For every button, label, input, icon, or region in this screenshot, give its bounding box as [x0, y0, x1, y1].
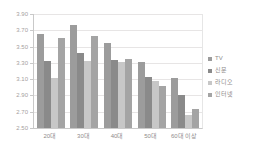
- x-axis-label: 20대: [33, 131, 67, 140]
- legend: TV신문라디오인터넷: [208, 55, 233, 98]
- bar-tv: [37, 34, 44, 128]
- legend-label: 신문: [215, 67, 227, 74]
- x-axis-label: 60대 이상: [167, 131, 201, 140]
- bar-group-2: [68, 14, 102, 128]
- bar-tv: [138, 62, 145, 128]
- bar-group-3: [101, 14, 135, 128]
- bar-인터넷: [192, 109, 199, 128]
- bar-tv: [104, 43, 111, 129]
- bar-라디오: [51, 78, 58, 128]
- legend-label: TV: [215, 55, 223, 62]
- bar-인터넷: [91, 36, 98, 128]
- y-axis-label: 3.30: [6, 60, 28, 66]
- bar-신문: [44, 61, 51, 128]
- y-axis-label: 2.50: [6, 125, 28, 131]
- bar-group-5: [168, 14, 202, 128]
- bar-tv: [171, 78, 178, 128]
- legend-item-라디오: 라디오: [208, 79, 233, 86]
- legend-marker-icon: [208, 57, 212, 61]
- bar-라디오: [84, 61, 91, 128]
- y-axis-label: 3.90: [6, 11, 28, 17]
- bar-groups: [34, 14, 202, 128]
- y-axis-label: 3.50: [6, 44, 28, 50]
- y-axis-label: 3.70: [6, 27, 28, 33]
- y-axis-label: 2.90: [6, 92, 28, 98]
- bar-group-4: [135, 14, 169, 128]
- x-axis-label: 40대: [100, 131, 134, 140]
- legend-marker-icon: [208, 81, 212, 85]
- bar-신문: [77, 53, 84, 128]
- bar-신문: [178, 95, 185, 128]
- bar-라디오: [185, 115, 192, 128]
- bar-인터넷: [159, 86, 166, 128]
- legend-label: 인터넷: [215, 91, 233, 98]
- bar-라디오: [118, 62, 125, 128]
- bar-라디오: [152, 81, 159, 128]
- y-axis-label: 3.10: [6, 76, 28, 82]
- legend-marker-icon: [208, 69, 212, 73]
- legend-label: 라디오: [215, 79, 233, 86]
- bar-chart: 3.903.703.503.303.102.902.702.50 20대30대4…: [0, 0, 254, 157]
- x-axis-label: 50대: [134, 131, 168, 140]
- bar-인터넷: [125, 59, 132, 128]
- x-axis-label: 30대: [67, 131, 101, 140]
- legend-item-신문: 신문: [208, 67, 233, 74]
- y-axis-label: 2.70: [6, 109, 28, 115]
- bar-인터넷: [58, 38, 65, 128]
- bar-신문: [111, 60, 118, 128]
- legend-marker-icon: [208, 93, 212, 97]
- bar-group-1: [34, 14, 68, 128]
- legend-item-tv: TV: [208, 55, 233, 62]
- legend-item-인터넷: 인터넷: [208, 91, 233, 98]
- x-axis-labels: 20대30대40대50대60대 이상: [33, 131, 201, 140]
- plot-area: [33, 14, 203, 129]
- bar-신문: [145, 77, 152, 128]
- bar-tv: [70, 25, 77, 128]
